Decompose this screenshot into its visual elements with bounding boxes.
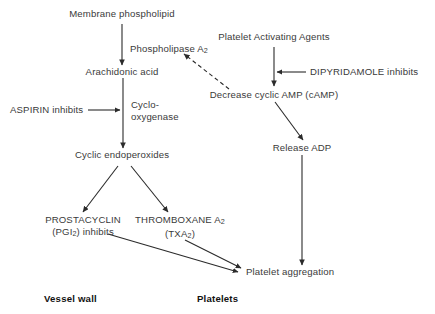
region-label-vessel-wall-text: Vessel wall: [44, 293, 97, 304]
node-prostacyclin: PROSTACYCLIN (PGI2) inhibits: [45, 214, 121, 239]
node-platelet-activating-agents-label: Platelet Activating Agents: [218, 31, 330, 42]
node-dipyridamole-inhibits: DIPYRIDAMOLE inhibits: [310, 66, 418, 78]
node-prostacyclin-label: PROSTACYCLIN: [45, 214, 121, 226]
node-dipyridamole-inhibits-label: DIPYRIDAMOLE inhibits: [310, 66, 418, 77]
node-platelet-aggregation: Platelet aggregation: [246, 266, 334, 278]
node-txa2-prefix: (TXA: [165, 228, 187, 239]
node-cyclo-oxygenase: Cyclo- oxygenase: [131, 99, 179, 122]
node-pgi2-suffix: ) inhibits: [77, 226, 114, 237]
region-label-platelets-text: Platelets: [197, 293, 238, 304]
node-aspirin-inhibits-label: ASPIRIN inhibits: [10, 104, 83, 115]
node-decrease-cyclic-amp-label: Decrease cyclic AMP (cAMP): [210, 89, 338, 100]
node-arachidonic-acid: Arachidonic acid: [86, 66, 159, 78]
node-cyclo-oxygenase-line1: Cyclo-: [131, 99, 179, 111]
node-thromboxane-label: THROMBOXANE A2: [135, 214, 225, 228]
arrow-camp-to-phospholipase-dashed: [184, 54, 229, 89]
pathway-diagram: Membrane phospholipid Phospholipase A2 A…: [0, 0, 435, 314]
node-platelet-activating-agents: Platelet Activating Agents: [218, 31, 330, 43]
node-cyclic-endoperoxides-label: Cyclic endoperoxides: [75, 149, 169, 160]
node-thromboxane-subscript: 2: [221, 217, 225, 226]
node-cyclic-endoperoxides: Cyclic endoperoxides: [75, 149, 169, 161]
node-platelet-aggregation-label: Platelet aggregation: [246, 266, 334, 277]
node-thromboxane: THROMBOXANE A2 (TXA2): [135, 214, 225, 242]
node-membrane-phospholipid-label: Membrane phospholipid: [69, 8, 175, 19]
node-prostacyclin-pgi2: (PGI2) inhibits: [45, 226, 121, 240]
arrow-endoperoxides-to-thromboxane: [131, 166, 168, 212]
node-membrane-phospholipid: Membrane phospholipid: [69, 8, 175, 20]
arrow-endoperoxides-to-prostacyclin: [83, 166, 118, 212]
node-thromboxane-txa2: (TXA2): [135, 228, 225, 242]
region-label-vessel-wall: Vessel wall: [44, 293, 97, 304]
node-release-adp-label: Release ADP: [273, 142, 332, 153]
node-phospholipase-a2: Phospholipase A2: [130, 43, 208, 57]
node-arachidonic-acid-label: Arachidonic acid: [86, 66, 159, 77]
arrow-camp-to-release-adp: [275, 102, 303, 140]
node-txa2-suffix: ): [192, 228, 195, 239]
node-cyclo-oxygenase-line2: oxygenase: [131, 111, 179, 123]
node-phospholipase-a2-label: Phospholipase A: [130, 43, 204, 54]
node-thromboxane-name: THROMBOXANE A: [135, 214, 221, 225]
node-decrease-cyclic-amp: Decrease cyclic AMP (cAMP): [210, 89, 338, 101]
arrow-thromboxane-to-aggregation: [185, 240, 241, 268]
node-pgi2-prefix: (PGI: [52, 226, 72, 237]
diagram-arrows-layer: [0, 0, 435, 314]
node-aspirin-inhibits: ASPIRIN inhibits: [10, 104, 83, 116]
region-label-platelets: Platelets: [197, 293, 238, 304]
node-release-adp: Release ADP: [273, 142, 332, 154]
node-phospholipase-a2-subscript: 2: [204, 46, 208, 55]
